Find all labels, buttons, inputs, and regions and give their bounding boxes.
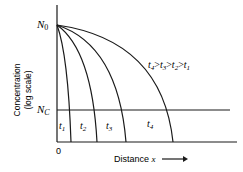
curve-labels: t1 t2 t3 t4 xyxy=(59,118,154,133)
curve-label-t4: t4 xyxy=(147,118,154,131)
nc-label: NC xyxy=(36,103,50,117)
y-axis-label-2: (log scale) xyxy=(23,70,33,109)
curve-label-t2: t2 xyxy=(80,120,87,133)
diffusion-diagram: N0 NC 0 Concentration (log scale) Distan… xyxy=(0,0,243,172)
arrow-head-icon xyxy=(183,156,188,162)
time-inequality: t4>t3>t2>t1 xyxy=(148,59,190,72)
curve-t4 xyxy=(57,25,173,142)
curve-label-t1: t1 xyxy=(59,120,65,133)
x-axis-label: Distance x xyxy=(114,154,156,164)
origin-label: 0 xyxy=(56,146,61,156)
y-axis-label-1: Concentration xyxy=(12,63,22,116)
curve-label-t3: t3 xyxy=(106,120,113,133)
n0-label: N0 xyxy=(36,18,48,32)
